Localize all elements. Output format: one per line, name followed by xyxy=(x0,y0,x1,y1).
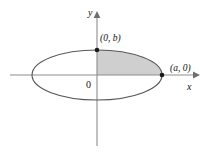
ellipse-figure: y x 0 (0, b) (a, 0) xyxy=(0,0,204,157)
right-vertex-dot xyxy=(160,73,165,78)
y-axis-arrowhead xyxy=(94,11,101,18)
x-axis-arrowhead xyxy=(193,72,200,79)
top-vertex-dot xyxy=(95,48,100,53)
y-axis-label: y xyxy=(88,8,92,18)
right-vertex-label: (a, 0) xyxy=(170,64,191,74)
figure-canvas xyxy=(0,0,204,157)
top-vertex-label: (0, b) xyxy=(100,34,121,44)
origin-label: 0 xyxy=(86,80,91,90)
x-axis-label: x xyxy=(187,82,191,92)
